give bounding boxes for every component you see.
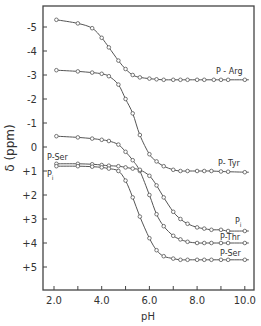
y-tick-label: +5 <box>22 262 37 273</box>
y-tick-label: -3 <box>27 70 37 81</box>
data-point <box>202 78 206 82</box>
data-point <box>55 164 59 168</box>
data-curves <box>55 18 249 262</box>
data-point <box>155 184 159 188</box>
data-point <box>117 164 121 168</box>
data-point <box>76 22 80 26</box>
data-point <box>179 258 183 262</box>
data-point <box>243 78 247 82</box>
data-point <box>107 167 111 171</box>
x-tick-label: 4.0 <box>94 295 110 306</box>
data-point <box>55 18 59 22</box>
data-point <box>210 258 214 262</box>
curve-line <box>56 164 248 231</box>
data-point <box>171 168 175 172</box>
data-point <box>100 36 104 40</box>
data-point <box>219 228 223 232</box>
y-tick-label: +3 <box>22 214 37 225</box>
data-point <box>226 78 230 82</box>
data-point <box>148 77 152 81</box>
data-point <box>210 241 214 245</box>
label-p-arg: P - Arg <box>216 67 243 76</box>
data-point <box>179 217 183 221</box>
data-point <box>100 166 104 170</box>
data-point <box>162 164 166 168</box>
data-point <box>155 78 159 82</box>
x-tick-label: 8.0 <box>189 295 205 306</box>
data-point <box>171 78 175 82</box>
data-point <box>138 133 142 137</box>
data-point <box>131 196 135 200</box>
data-point <box>124 67 128 71</box>
data-point <box>131 73 135 77</box>
data-point <box>107 46 111 50</box>
data-point <box>100 72 104 76</box>
data-point <box>55 134 59 138</box>
data-point <box>124 150 128 154</box>
label-p-thr: P-Thr <box>220 233 241 242</box>
data-point <box>243 170 247 174</box>
label-p-tyr: P- Tyr <box>218 159 240 168</box>
data-point <box>162 224 166 228</box>
y-tick-label: -2 <box>27 94 37 105</box>
data-point <box>76 136 80 140</box>
y-axis-title: δ (ppm) <box>3 124 17 171</box>
data-point <box>210 169 214 173</box>
data-point <box>186 169 190 173</box>
data-point <box>148 193 152 197</box>
data-point <box>243 241 247 245</box>
data-point <box>171 210 175 214</box>
data-point <box>179 238 183 242</box>
data-point <box>195 78 199 82</box>
data-point <box>76 70 80 74</box>
chemical-shift-vs-ph-chart: -5-4-3-2-10+1+2+3+4+5 2.04.06.08.010.0 P… <box>0 0 261 326</box>
data-point <box>148 174 152 178</box>
data-point <box>117 83 121 87</box>
data-point <box>226 258 230 262</box>
data-point <box>90 71 94 75</box>
data-point <box>202 241 206 245</box>
data-point <box>148 236 152 240</box>
x-axis-ticks: 2.04.06.08.010.0 <box>46 286 256 306</box>
data-point <box>202 258 206 262</box>
label-p-ser: P-Ser <box>220 249 242 258</box>
plot-frame <box>43 6 254 290</box>
data-point <box>124 179 128 183</box>
data-point <box>243 258 247 262</box>
data-point <box>107 139 111 143</box>
data-point <box>179 78 183 82</box>
curve-line <box>56 136 248 243</box>
data-point <box>131 112 135 116</box>
data-point <box>219 258 223 262</box>
data-point <box>171 257 175 261</box>
data-point <box>186 78 190 82</box>
data-point <box>90 165 94 169</box>
y-tick-label: -5 <box>27 22 37 33</box>
y-tick-label: 0 <box>31 142 37 153</box>
data-point <box>131 158 135 162</box>
data-point <box>186 222 190 226</box>
data-point <box>117 59 121 63</box>
plot-border <box>43 6 254 290</box>
data-point <box>179 169 183 173</box>
data-point <box>195 258 199 262</box>
data-point <box>117 169 121 173</box>
data-point <box>212 78 216 82</box>
data-point <box>90 26 94 30</box>
data-point <box>202 169 206 173</box>
data-point <box>90 137 94 141</box>
data-point <box>138 168 142 172</box>
data-point <box>202 227 206 231</box>
data-point <box>171 234 175 238</box>
data-point <box>219 78 223 82</box>
data-point <box>162 78 166 82</box>
data-point <box>117 143 121 147</box>
data-point <box>162 196 166 200</box>
data-point <box>155 160 159 164</box>
y-tick-label: +1 <box>22 166 37 177</box>
x-tick-label: 6.0 <box>141 295 157 306</box>
data-point <box>226 170 230 174</box>
data-point <box>124 166 128 170</box>
data-point <box>219 170 223 174</box>
data-point <box>195 169 199 173</box>
